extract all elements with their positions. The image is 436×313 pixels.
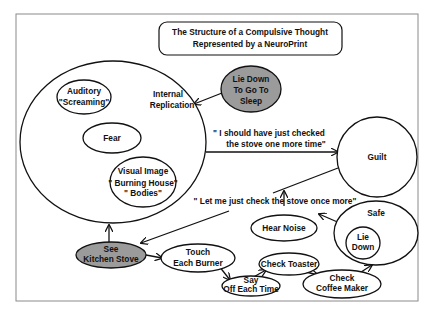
hear-noise-label: Hear Noise (262, 223, 306, 233)
lie-down-label-1: Lie (357, 232, 369, 242)
check-toaster-label: Check Toaster (261, 259, 318, 269)
edge-label-let-me-check: " Let me just check the stove once more" (194, 196, 357, 206)
fear-label: Fear (103, 133, 121, 143)
check-coffee-label-1: Check (330, 273, 355, 283)
internal-replication-label-1: Internal (153, 89, 183, 99)
node-fear: Fear (83, 123, 141, 153)
guilt-label: Guilt (368, 152, 387, 162)
visual-image-label-3: " Bodies" (124, 188, 162, 198)
safe-label: Safe (367, 208, 385, 218)
should-have-checked-line-2: the stove one more time" (226, 139, 325, 149)
lie-down-label-2: Down (352, 242, 375, 252)
see-stove-label-1: See (104, 244, 119, 254)
visual-image-label-1: Visual Image (118, 166, 169, 176)
lie-down-sleep-label-1: Lie Down (233, 74, 270, 84)
visual-image-label-2: " Burning House" (108, 178, 178, 188)
lie-down-sleep-label-3: Sleep (240, 96, 262, 106)
touch-burner-label-1: Touch (186, 247, 210, 257)
auditory-label-1: Auditory (67, 86, 101, 96)
lie-down-sleep-label-2: To Go To (233, 85, 268, 95)
node-lie-down: Lie Down (346, 227, 380, 259)
node-visual-image: Visual Image " Burning House" " Bodies" (108, 157, 178, 207)
auditory-label-2: "Screaming" (59, 97, 109, 107)
check-coffee-label-2: Coffee Maker (316, 283, 369, 293)
node-auditory: Auditory "Screaming" (57, 80, 111, 114)
node-guilt: Guilt (337, 117, 417, 197)
should-have-checked-line-1: " I should have just checked (213, 128, 325, 138)
title-line-1: The Structure of a Compulsive Thought (172, 27, 328, 37)
title-line-2: Represented by a NeuroPrint (193, 39, 308, 49)
say-off-label-2: Off Each Time (223, 284, 279, 294)
edge-label-should-have-checked: " I should have just checked the stove o… (213, 128, 326, 149)
see-stove-label-2: Kitchen Stove (83, 254, 139, 264)
node-touch-each-burner: Touch Each Burner (161, 244, 235, 272)
node-see-kitchen-stove: See Kitchen Stove (76, 242, 146, 268)
touch-burner-label-2: Each Burner (173, 258, 223, 268)
internal-replication-label-2: Replication (150, 100, 195, 110)
title-box: The Structure of a Compulsive Thought Re… (159, 22, 342, 55)
node-check-toaster: Check Toaster (259, 253, 319, 275)
node-hear-noise: Hear Noise (251, 215, 317, 241)
node-check-coffee-maker: Check Coffee Maker (303, 270, 381, 298)
node-lie-down-to-sleep: Lie Down To Go To Sleep (221, 66, 281, 112)
neuroprint-diagram: The Structure of a Compulsive Thought Re… (0, 0, 436, 313)
